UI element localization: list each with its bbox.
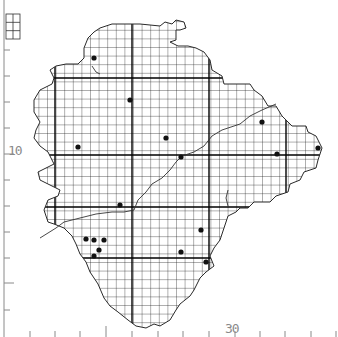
record-dot [91,237,96,242]
record-dot [178,154,183,159]
record-dot [203,259,208,264]
record-dot [91,55,96,60]
record-dot [83,236,88,241]
record-dot [127,97,132,102]
map-figure: 10 30 [0,0,338,337]
record-dot [101,237,106,242]
x-axis-label-30: 30 [225,321,239,336]
grid-cells [0,0,338,337]
inset-key-icon [6,14,20,39]
record-dot [75,144,80,149]
record-dot [178,249,183,254]
x-axis-ticks [30,326,336,337]
record-dot [274,151,279,156]
record-dot [163,135,168,140]
distribution-map [0,0,338,337]
y-axis-ticks [4,50,14,310]
record-dot [198,227,203,232]
record-dot [96,247,101,252]
y-axis-label-10: 10 [8,143,22,158]
record-dot [91,253,96,258]
record-dot [117,202,122,207]
record-dot [259,119,264,124]
record-dot [315,145,320,150]
